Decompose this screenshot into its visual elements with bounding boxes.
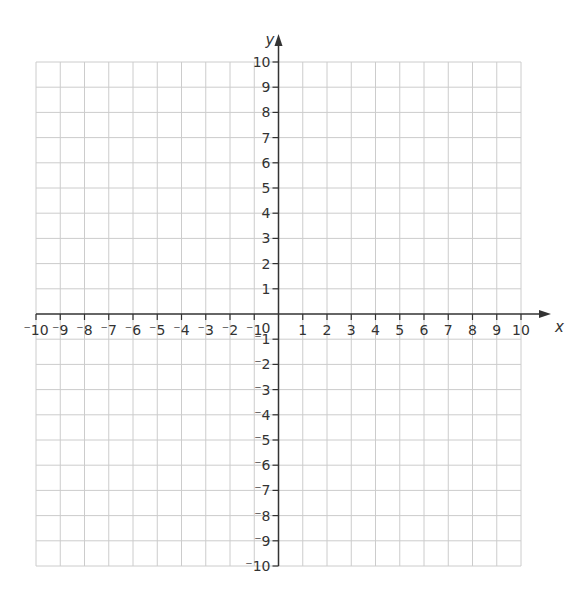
axes [36,34,551,566]
y-tick-label: ⁻10 [245,558,270,574]
x-tick-label: 9 [492,322,501,338]
y-tick-label: ⁻2 [254,356,270,372]
x-tick-label: ⁻3 [198,322,214,338]
x-tick-label: ⁻5 [149,322,165,338]
x-tick-label: ⁻10 [23,322,48,338]
coordinate-grid: ⁻10⁻9⁻8⁻7⁻6⁻5⁻4⁻3⁻2⁻112345678910⁻10⁻9⁻8⁻… [0,0,574,607]
y-tick-label: 5 [262,180,271,196]
x-tick-label: 6 [420,322,429,338]
y-tick-label: ⁻9 [254,533,270,549]
y-tick-label: 1 [262,281,271,297]
y-tick-label: ⁻7 [254,482,270,498]
x-tick-label: 7 [444,322,453,338]
x-tick-label: 5 [395,322,404,338]
x-axis-label: x [554,318,564,336]
y-axis-label: y [265,31,276,49]
y-tick-label: ⁻4 [254,407,270,423]
y-tick-label: 6 [262,155,271,171]
y-tick-label: 4 [262,205,271,221]
x-tick-label: 4 [371,322,380,338]
x-tick-label: 1 [298,322,307,338]
x-tick-label: 8 [468,322,477,338]
y-tick-label: ⁻8 [254,508,270,524]
y-tick-label: 7 [262,130,271,146]
y-tick-label: ⁻3 [254,382,270,398]
y-tick-label: ⁻6 [254,457,270,473]
x-tick-label: ⁻7 [101,322,117,338]
x-tick-label: ⁻4 [173,322,189,338]
origin-label: 0 [262,320,271,336]
x-tick-label: 10 [512,322,530,338]
y-tick-label: 10 [253,54,271,70]
y-axis-arrow-icon [275,34,283,46]
x-tick-label: ⁻6 [125,322,141,338]
x-tick-label: 2 [323,322,332,338]
x-tick-label: ⁻2 [222,322,238,338]
x-tick-label: 3 [347,322,356,338]
x-tick-label: ⁻9 [52,322,68,338]
y-tick-label: 8 [262,104,271,120]
x-axis-arrow-icon [539,310,551,318]
y-tick-label: ⁻5 [254,432,270,448]
x-tick-label: ⁻8 [76,322,92,338]
y-tick-label: 2 [262,256,271,272]
y-tick-label: 9 [262,79,271,95]
y-tick-label: 3 [262,230,271,246]
